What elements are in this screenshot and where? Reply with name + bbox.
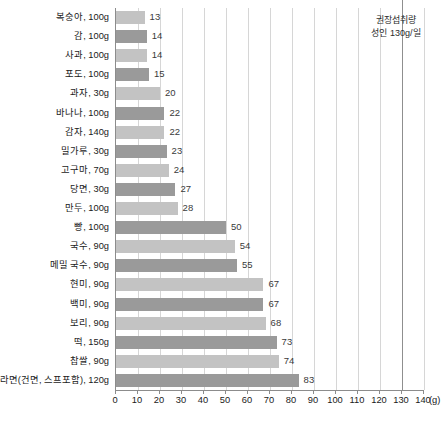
category-label: 빵, 100g	[74, 218, 109, 237]
bar-row: 20	[116, 84, 424, 103]
bar-value-label: 20	[165, 86, 176, 100]
bar	[116, 317, 266, 330]
axis-tick-label-80: 80	[286, 395, 296, 405]
axis-tick-label-20: 20	[154, 395, 164, 405]
bar-value-label: 23	[172, 144, 183, 158]
axis-tick-30	[181, 390, 182, 394]
axis-tick-label-70: 70	[264, 395, 274, 405]
category-label: 사과, 100g	[65, 46, 109, 65]
axis-tick-60	[247, 390, 248, 394]
category-label: 포도, 100g	[65, 65, 109, 84]
axis-tick-label-140: 140	[415, 395, 431, 405]
bar	[116, 259, 237, 272]
bar	[116, 240, 235, 253]
recommended-intake-line-1: 권장섭취량	[352, 14, 440, 27]
category-label: 감, 100g	[74, 27, 109, 46]
bar-value-label: 24	[174, 163, 185, 177]
bar-row: 67	[116, 295, 424, 314]
bar	[116, 11, 145, 24]
carbohydrate-bar-chart: 복숭아, 100g감, 100g사과, 100g포도, 100g과자, 30g바…	[0, 0, 447, 431]
bar-value-label: 22	[169, 106, 180, 120]
gridline-140	[424, 8, 425, 390]
category-label: 바나나, 100g	[56, 104, 109, 123]
bar	[116, 355, 279, 368]
category-label: 밀가루, 30g	[61, 142, 109, 161]
plot-area: 1314141520222223242728505455676768737483	[115, 8, 424, 391]
axis-tick-50	[225, 390, 226, 394]
bar-value-label: 74	[284, 354, 295, 368]
axis-tick-120	[379, 390, 380, 394]
category-label: 감자, 140g	[65, 123, 109, 142]
bar-row: 50	[116, 218, 424, 237]
bar-value-label: 28	[183, 201, 194, 215]
bar	[116, 107, 164, 120]
bar-value-label: 55	[242, 258, 253, 272]
bar-row: 54	[116, 237, 424, 256]
bar	[116, 183, 175, 196]
axis-tick-label-130: 130	[393, 395, 409, 405]
bar-row: 28	[116, 199, 424, 218]
bar-row: 14	[116, 46, 424, 65]
axis-tick-70	[269, 390, 270, 394]
category-label: 복숭아, 100g	[56, 8, 109, 27]
bar-rows: 1314141520222223242728505455676768737483	[116, 8, 424, 390]
bar-value-label: 50	[231, 220, 242, 234]
axis-tick-10	[137, 390, 138, 394]
bar-row: 67	[116, 275, 424, 294]
axis-tick-40	[203, 390, 204, 394]
bar	[116, 221, 226, 234]
axis-tick-label-40: 40	[198, 395, 208, 405]
axis-tick-label-110: 110	[350, 395, 365, 405]
axis-tick-110	[357, 390, 358, 394]
axis-tick-label-90: 90	[308, 395, 318, 405]
axis-tick-label-30: 30	[176, 395, 186, 405]
axis-tick-140	[423, 390, 424, 394]
bar	[116, 298, 263, 311]
bar	[116, 145, 167, 158]
axis-tick-label-50: 50	[220, 395, 230, 405]
axis-tick-80	[291, 390, 292, 394]
axis-tick-100	[335, 390, 336, 394]
bar-row: 27	[116, 180, 424, 199]
axis-tick-label-60: 60	[242, 395, 252, 405]
category-label: 떡, 150g	[74, 333, 109, 352]
axis-tick-130	[401, 390, 402, 394]
axis-tick-20	[159, 390, 160, 394]
bar-value-label: 22	[169, 125, 180, 139]
category-label: 보리, 90g	[70, 314, 109, 333]
recommended-intake-line-2: 성인 130g/일	[352, 27, 440, 40]
bar	[116, 49, 147, 62]
bar-value-label: 83	[304, 373, 315, 387]
axis-tick-label-10: 10	[132, 395, 142, 405]
bar	[116, 164, 169, 177]
bar-row: 22	[116, 104, 424, 123]
category-label: 국수, 90g	[70, 237, 109, 256]
bar	[116, 336, 277, 349]
bar-value-label: 68	[271, 316, 282, 330]
bar-row: 68	[116, 314, 424, 333]
axis-tick-90	[313, 390, 314, 394]
bar-value-label: 15	[154, 67, 165, 81]
bar-row: 24	[116, 161, 424, 180]
category-label: 찹쌀, 90g	[70, 352, 109, 371]
bar-value-label: 54	[240, 239, 251, 253]
value-axis: (g) 0102030405060708090100110120130140	[115, 390, 425, 412]
category-axis-labels: 복숭아, 100g감, 100g사과, 100g포도, 100g과자, 30g바…	[0, 8, 112, 390]
bar	[116, 374, 299, 387]
bar	[116, 278, 263, 291]
bar-value-label: 73	[282, 335, 293, 349]
bar-value-label: 13	[150, 10, 161, 24]
category-label: 과자, 30g	[70, 84, 109, 103]
recommended-intake-annotation: 권장섭취량 성인 130g/일	[352, 14, 440, 40]
axis-tick-label-120: 120	[371, 395, 387, 405]
bar-row: 73	[116, 333, 424, 352]
bar	[116, 126, 164, 139]
category-label: 라면(건면, 스프포함), 120g	[0, 371, 109, 390]
bar	[116, 202, 178, 215]
bar-value-label: 14	[152, 29, 163, 43]
category-label: 당면, 30g	[70, 180, 109, 199]
category-label: 현미, 90g	[70, 275, 109, 294]
category-label: 만두, 100g	[65, 199, 109, 218]
bar	[116, 68, 149, 81]
category-label: 메밀 국수, 90g	[50, 256, 109, 275]
